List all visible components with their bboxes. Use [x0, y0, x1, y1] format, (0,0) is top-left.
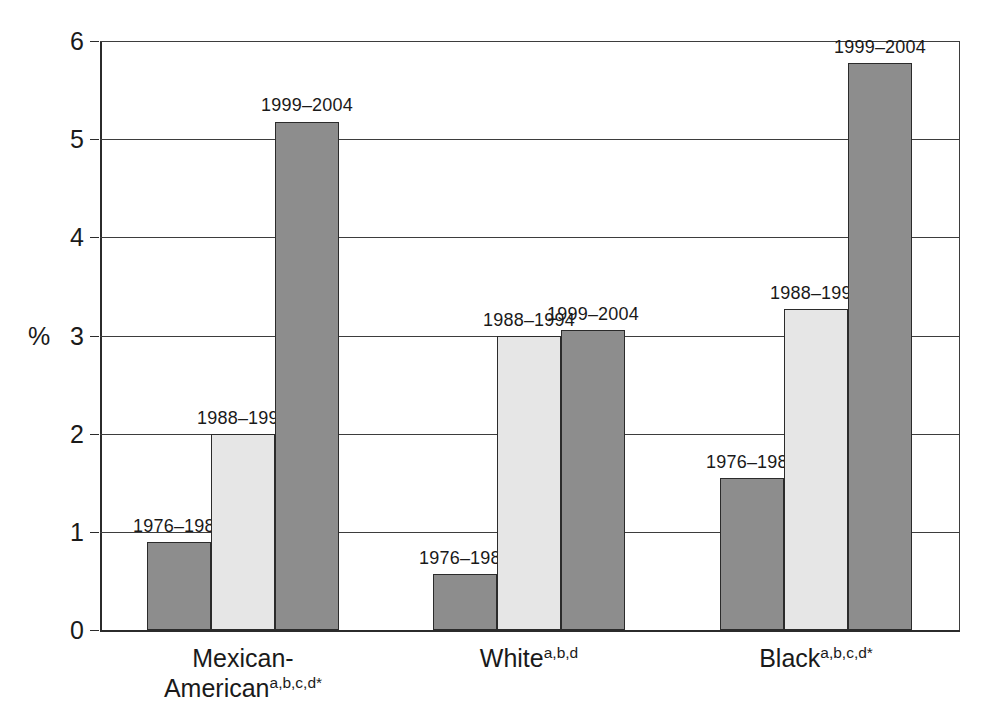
bar-black-1999-2004: [848, 63, 912, 630]
category-label-white: Whitea,b,d: [480, 644, 578, 674]
category-label-mexican-american: Mexican-Americana,b,c,d*: [164, 644, 322, 703]
y-axis-title: %: [28, 323, 50, 348]
category-label-line1: Mexican-: [164, 644, 322, 674]
y-tick-label-6: 6: [70, 29, 84, 54]
y-tick-mark-4: [90, 237, 99, 238]
y-tick-mark-1: [90, 532, 99, 533]
bar-chart-figure: % 0123456 1976–19801988–19941999–2004197…: [0, 0, 987, 709]
bar-mexican-american-1999-2004: [275, 122, 339, 631]
y-tick-mark-0: [90, 630, 99, 631]
bar-value-label: 1999–2004: [547, 305, 639, 323]
y-tick-mark-5: [90, 139, 99, 140]
y-tick-label-5: 5: [70, 127, 84, 152]
bar-value-label: 1999–2004: [834, 38, 926, 56]
y-tick-label-1: 1: [70, 519, 84, 544]
gridline-4: [100, 237, 960, 238]
gridline-5: [100, 139, 960, 140]
y-tick-label-3: 3: [70, 323, 84, 348]
bar-black-1976-1980: [720, 478, 784, 630]
bar-white-1988-1994: [497, 336, 561, 631]
y-tick-label-0: 0: [70, 618, 84, 643]
bar-mexican-american-1976-1980: [147, 542, 211, 630]
bar-mexican-american-1988-1994: [211, 434, 275, 630]
y-tick-label-2: 2: [70, 421, 84, 446]
category-footnote-superscript: a,b,d: [544, 644, 578, 661]
category-label-black: Blacka,b,c,d*: [759, 644, 873, 674]
gridline-6: [100, 41, 960, 42]
category-footnote-superscript: a,b,c,d*: [820, 644, 873, 661]
gridline-0: [100, 630, 960, 632]
y-tick-mark-3: [90, 336, 99, 337]
bar-white-1999-2004: [561, 330, 625, 630]
y-tick-mark-2: [90, 434, 99, 435]
category-footnote-superscript: a,b,c,d*: [270, 673, 323, 690]
plot-area: 0123456 1976–19801988–19941999–20041976–…: [100, 41, 960, 630]
category-label-line2: Americana,b,c,d*: [164, 674, 322, 704]
y-tick-mark-6: [90, 41, 99, 42]
y-tick-label-4: 4: [70, 225, 84, 250]
bar-white-1976-1980: [433, 574, 497, 630]
bar-value-label: 1999–2004: [261, 96, 353, 114]
bar-black-1988-1994: [784, 309, 848, 630]
